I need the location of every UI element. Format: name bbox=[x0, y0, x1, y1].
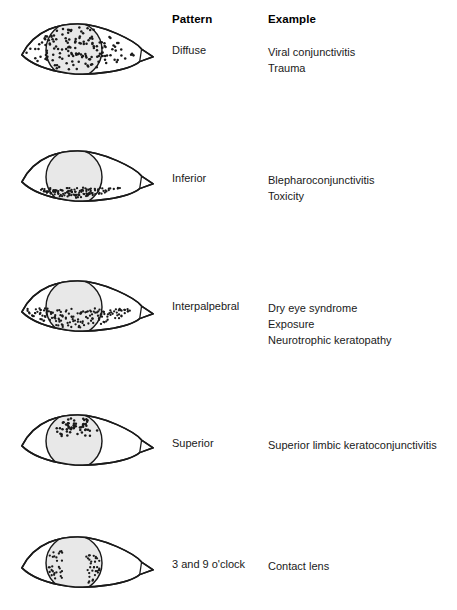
column-header-example: Example bbox=[268, 13, 316, 25]
example-item: Contact lens bbox=[268, 558, 329, 574]
staining-pattern-figure: Pattern Example DiffuseViral conjunctivi… bbox=[0, 0, 457, 610]
eye-svg bbox=[18, 406, 158, 478]
eye-svg bbox=[18, 15, 158, 87]
eye-diagram-inferior bbox=[18, 142, 158, 214]
example-item: Superior limbic keratoconjunctivitis bbox=[268, 437, 437, 453]
pattern-label-superior: Superior bbox=[172, 437, 214, 449]
pattern-label-inferior: Inferior bbox=[172, 172, 206, 184]
example-item: Neurotrophic keratopathy bbox=[268, 332, 392, 348]
cornea bbox=[46, 149, 102, 205]
pattern-label-three-and-nine-oclock: 3 and 9 o'clock bbox=[172, 558, 245, 570]
eye-svg bbox=[18, 142, 158, 214]
example-item: Blepharoconjunctivitis bbox=[268, 172, 374, 188]
column-header-pattern: Pattern bbox=[172, 13, 212, 25]
example-list-diffuse: Viral conjunctivitisTrauma bbox=[268, 44, 355, 76]
example-item: Viral conjunctivitis bbox=[268, 44, 355, 60]
cornea bbox=[46, 535, 102, 591]
example-item: Exposure bbox=[268, 316, 392, 332]
example-list-inferior: BlepharoconjunctivitisToxicity bbox=[268, 172, 374, 204]
example-item: Toxicity bbox=[268, 188, 374, 204]
pattern-label-interpalpebral: Interpalpebral bbox=[172, 300, 239, 312]
eye-diagram-superior bbox=[18, 406, 158, 478]
pattern-label-diffuse: Diffuse bbox=[172, 44, 206, 56]
example-item: Dry eye syndrome bbox=[268, 300, 392, 316]
eye-diagram-interpalpebral bbox=[18, 272, 158, 344]
example-item: Trauma bbox=[268, 60, 355, 76]
eye-svg bbox=[18, 528, 158, 600]
example-list-superior: Superior limbic keratoconjunctivitis bbox=[268, 437, 437, 453]
eye-svg bbox=[18, 272, 158, 344]
example-list-three-and-nine-oclock: Contact lens bbox=[268, 558, 329, 574]
eye-diagram-three-and-nine-oclock bbox=[18, 528, 158, 600]
example-list-interpalpebral: Dry eye syndromeExposureNeurotrophic ker… bbox=[268, 300, 392, 348]
eye-diagram-diffuse bbox=[18, 15, 158, 87]
cornea bbox=[46, 279, 102, 335]
